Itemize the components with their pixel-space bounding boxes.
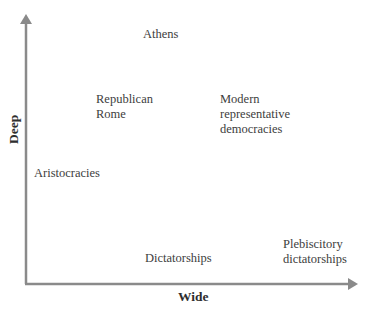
label-aristocracies: Aristocracies [34,166,100,181]
label-line: representative [220,107,290,122]
x-axis-arrow-icon [348,278,358,290]
label-republican-rome: Republican Rome [96,92,153,122]
label-line: democracies [220,122,290,137]
label-line: dictatorships [283,252,347,267]
x-axis-label: Wide [178,289,209,305]
label-line: Dictatorships [145,251,212,266]
y-axis-arrow-icon [20,14,32,24]
label-line: Aristocracies [34,166,100,181]
y-axis-label: Deep [6,115,22,144]
label-athens: Athens [143,27,178,42]
label-line: Rome [96,107,153,122]
label-line: Modern [220,92,290,107]
label-line: Plebiscitory [283,237,347,252]
label-modern-representative-democracies: Modern representative democracies [220,92,290,137]
label-line: Republican [96,92,153,107]
label-plebiscitory-dictatorships: Plebiscitory dictatorships [283,237,347,267]
axes [0,0,365,320]
label-line: Athens [143,27,178,42]
label-dictatorships: Dictatorships [145,251,212,266]
